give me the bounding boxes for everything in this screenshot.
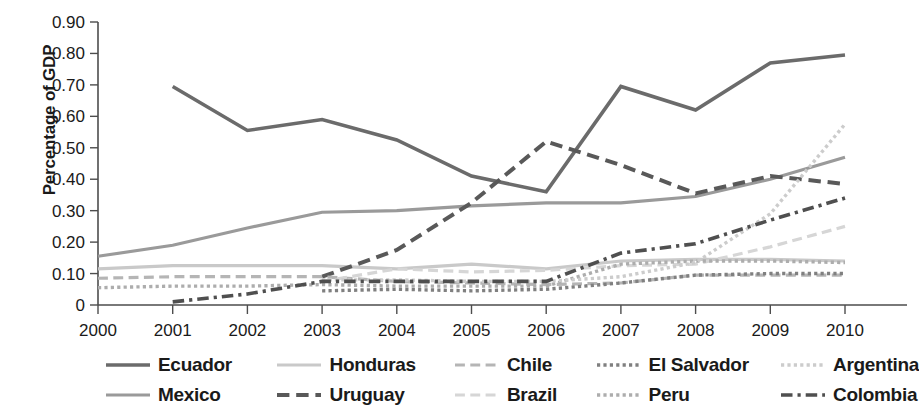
y-axis-group: 00.100.200.300.400.500.600.700.800.90 xyxy=(52,13,98,315)
legend-row: MexicoUruguayBrazilPeruColombia xyxy=(105,382,905,408)
x-tick-label: 2006 xyxy=(527,321,565,340)
y-tick-label: 0.40 xyxy=(52,170,85,189)
series-line-brazil xyxy=(322,226,845,281)
legend-label: Colombia xyxy=(833,384,917,406)
series-line-honduras xyxy=(98,259,845,268)
legend-item-honduras[interactable]: Honduras xyxy=(276,352,453,378)
legend-label: El Salvador xyxy=(649,354,749,376)
x-tick-label: 2008 xyxy=(677,321,715,340)
x-tick-label: 2007 xyxy=(602,321,640,340)
legend-item-colombia[interactable]: Colombia xyxy=(780,382,905,408)
legend-swatch-icon xyxy=(105,358,151,372)
y-tick-label: 0.30 xyxy=(52,202,85,221)
y-tick-label: 0.80 xyxy=(52,44,85,63)
y-tick-label: 0.60 xyxy=(52,107,85,126)
legend-swatch-icon xyxy=(276,388,322,402)
x-tick-label: 2010 xyxy=(826,321,864,340)
series-line-mexico xyxy=(98,157,845,256)
legend-swatch-icon xyxy=(276,358,322,372)
legend-item-el-salvador[interactable]: El Salvador xyxy=(596,352,780,378)
legend-label: Uruguay xyxy=(329,384,404,406)
legend-item-mexico[interactable]: Mexico xyxy=(105,382,276,408)
chart-legend: EcuadorHondurasChileEl SalvadorArgentina… xyxy=(105,352,905,408)
legend-label: Argentina xyxy=(833,354,919,376)
x-tick-label: 2000 xyxy=(79,321,117,340)
x-tick-label: 2009 xyxy=(751,321,789,340)
legend-item-chile[interactable]: Chile xyxy=(454,352,596,378)
legend-label: Peru xyxy=(649,384,690,406)
y-tick-label: 0.50 xyxy=(52,139,85,158)
y-tick-label: 0.70 xyxy=(52,76,85,95)
series-group xyxy=(98,55,845,302)
legend-label: Mexico xyxy=(158,384,221,406)
legend-swatch-icon xyxy=(780,358,826,372)
legend-swatch-icon xyxy=(780,388,826,402)
x-tick-label: 2004 xyxy=(378,321,416,340)
line-chart-plot: 00.100.200.300.400.500.600.700.800.90 20… xyxy=(0,0,915,345)
legend-label: Chile xyxy=(507,354,552,376)
y-tick-label: 0.20 xyxy=(52,233,85,252)
y-tick-label: 0 xyxy=(76,296,85,315)
y-tick-label: 0.90 xyxy=(52,13,85,32)
legend-swatch-icon xyxy=(454,358,500,372)
legend-label: Ecuador xyxy=(158,354,232,376)
legend-swatch-icon xyxy=(454,388,500,402)
legend-swatch-icon xyxy=(105,388,151,402)
x-tick-label: 2001 xyxy=(154,321,192,340)
legend-item-uruguay[interactable]: Uruguay xyxy=(276,382,453,408)
legend-item-argentina[interactable]: Argentina xyxy=(780,352,905,378)
legend-item-peru[interactable]: Peru xyxy=(596,382,780,408)
x-tick-label: 2005 xyxy=(453,321,491,340)
legend-item-ecuador[interactable]: Ecuador xyxy=(105,352,276,378)
x-tick-label: 2002 xyxy=(228,321,266,340)
legend-label: Brazil xyxy=(507,384,557,406)
legend-swatch-icon xyxy=(596,358,642,372)
x-axis-group: 2000200120022003200420052006200720082009… xyxy=(79,305,907,340)
x-tick-label: 2003 xyxy=(303,321,341,340)
legend-row: EcuadorHondurasChileEl SalvadorArgentina xyxy=(105,352,905,378)
legend-item-brazil[interactable]: Brazil xyxy=(454,382,596,408)
y-tick-label: 0.10 xyxy=(52,265,85,284)
legend-label: Honduras xyxy=(329,354,415,376)
legend-swatch-icon xyxy=(596,388,642,402)
